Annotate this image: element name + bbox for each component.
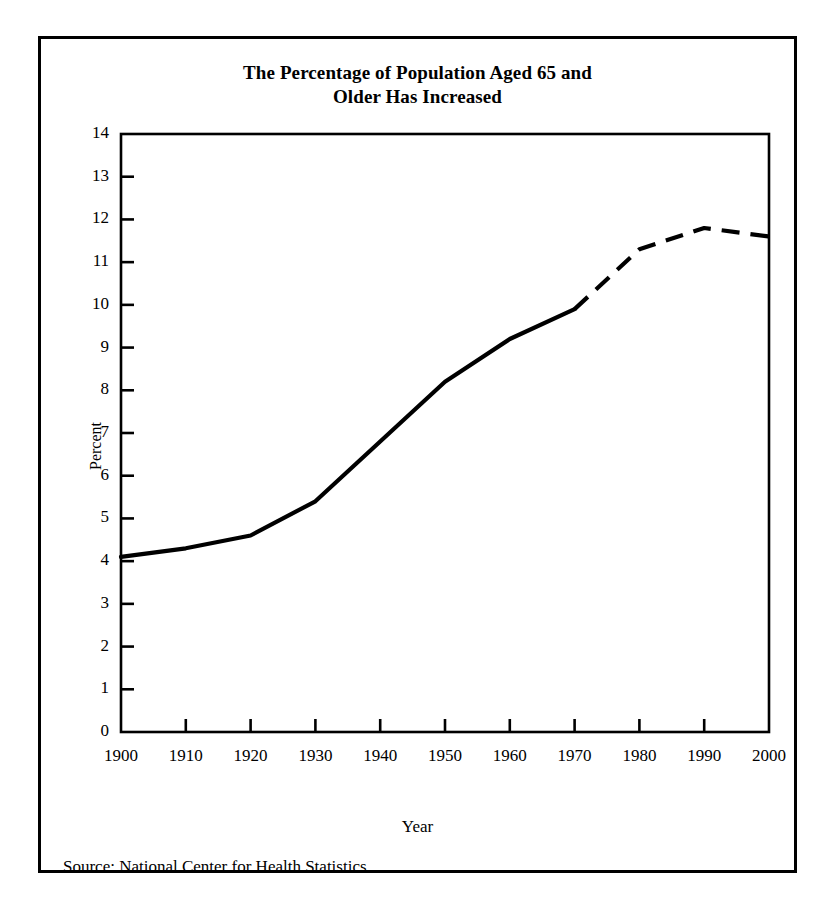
series-line-solid — [121, 309, 575, 557]
source-note: Source: National Center for Health Stati… — [63, 857, 367, 877]
y-axis-tick-label: 11 — [59, 251, 109, 271]
plot-frame — [121, 134, 769, 732]
y-axis-tick-label: 13 — [59, 166, 109, 186]
y-axis-tick-label: 8 — [59, 379, 109, 399]
figure-frame: The Percentage of Population Aged 65 and… — [38, 36, 797, 873]
x-axis-tick-label: 2000 — [729, 746, 809, 766]
y-axis-tick-label: 5 — [59, 507, 109, 527]
y-axis-tick-label: 9 — [59, 337, 109, 357]
y-axis-tick-label: 7 — [59, 422, 109, 442]
y-axis-tick-label: 2 — [59, 636, 109, 656]
y-axis-tick-label: 3 — [59, 593, 109, 613]
y-axis-tick-label: 14 — [59, 123, 109, 143]
y-axis-tick-label: 10 — [59, 294, 109, 314]
x-axis-title: Year — [41, 817, 794, 837]
y-axis-tick-label: 6 — [59, 465, 109, 485]
y-axis-tick-label: 12 — [59, 208, 109, 228]
y-axis-ticks — [121, 177, 134, 690]
x-axis-ticks — [186, 719, 704, 732]
y-axis-tick-label: 1 — [59, 678, 109, 698]
series-line-dashed — [575, 228, 769, 309]
y-axis-tick-label: 0 — [59, 721, 109, 741]
data-series-group — [121, 228, 769, 557]
axes — [121, 134, 769, 732]
y-axis-tick-label: 4 — [59, 550, 109, 570]
